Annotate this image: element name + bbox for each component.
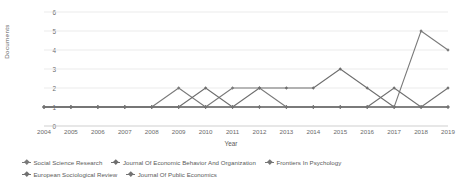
x-tick-label: 2008 xyxy=(137,128,167,135)
legend-marker-icon xyxy=(22,159,31,166)
legend-item[interactable]: European Sociological Review xyxy=(22,169,117,179)
x-tick-label: 2019 xyxy=(433,128,462,135)
chart-legend: Social Science ResearchJournal Of Econom… xyxy=(22,157,442,179)
data-point-marker xyxy=(312,105,315,108)
legend-marker-icon xyxy=(265,159,274,166)
legend-marker-icon xyxy=(22,171,31,178)
series-line xyxy=(44,31,448,107)
legend-marker-icon xyxy=(126,171,135,178)
x-tick-label: 2017 xyxy=(379,128,409,135)
x-tick-label: 2009 xyxy=(164,128,194,135)
data-point-marker xyxy=(96,105,99,108)
series-4 xyxy=(42,105,449,108)
series-0 xyxy=(42,29,449,108)
x-tick-label: 2010 xyxy=(191,128,221,135)
legend-item[interactable]: Frontiers In Psychology xyxy=(265,157,341,167)
data-point-marker xyxy=(285,86,288,89)
x-tick-label: 2014 xyxy=(298,128,328,135)
series-lines xyxy=(44,12,448,126)
x-axis-title: Year xyxy=(0,140,462,147)
x-tick-label: 2005 xyxy=(56,128,86,135)
x-tick-label: 2013 xyxy=(271,128,301,135)
legend-label: Frontiers In Psychology xyxy=(276,159,341,166)
legend-label: European Sociological Review xyxy=(34,171,118,178)
x-tick-label: 2007 xyxy=(110,128,140,135)
y-axis-title: Documents xyxy=(3,2,10,82)
x-tick-label: 2011 xyxy=(218,128,248,135)
legend-label: Journal Of Economic Behavior And Organiz… xyxy=(123,159,256,166)
x-tick-label: 2012 xyxy=(244,128,274,135)
data-point-marker xyxy=(69,105,72,108)
data-point-marker xyxy=(339,105,342,108)
legend-label: Journal Of Public Economics xyxy=(138,171,217,178)
legend-item[interactable]: Journal Of Economic Behavior And Organiz… xyxy=(111,157,256,167)
x-tick-label: 2018 xyxy=(406,128,436,135)
line-chart: Documents 0123456 2004200520062007200820… xyxy=(0,0,462,189)
legend-item[interactable]: Social Science Research xyxy=(22,157,102,167)
x-tick-label: 2006 xyxy=(83,128,113,135)
x-tick-label: 2015 xyxy=(325,128,355,135)
legend-item[interactable]: Journal Of Public Economics xyxy=(126,169,217,179)
legend-label: Social Science Research xyxy=(34,159,103,166)
plot-area xyxy=(44,12,448,126)
x-tick-label: 2004 xyxy=(29,128,59,135)
legend-marker-icon xyxy=(111,159,120,166)
x-tick-label: 2016 xyxy=(352,128,382,135)
data-point-marker xyxy=(446,105,449,108)
x-axis-tick-labels: 2004200520062007200820092010201120122013… xyxy=(44,128,448,139)
data-point-marker xyxy=(123,105,126,108)
data-point-marker xyxy=(258,105,261,108)
